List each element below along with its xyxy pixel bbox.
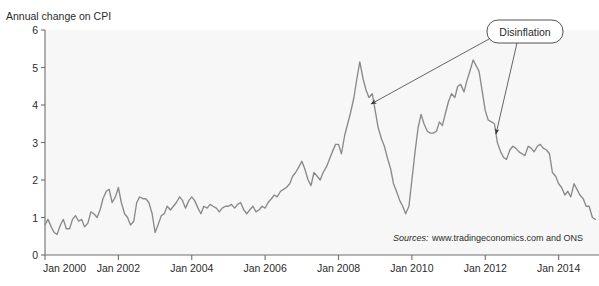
x-tick-label: Jan 2008 — [317, 262, 360, 274]
source-prefix-label: Sources: — [393, 233, 429, 243]
x-tick-label: Jan 2010 — [390, 262, 433, 274]
x-tick-label: Jan 2014 — [537, 262, 580, 274]
x-tick-label: Jan 2012 — [464, 262, 507, 274]
x-tick-label: Jan 2000 — [43, 262, 86, 274]
disinflation-label: Disinflation — [499, 26, 551, 38]
x-tick-label: Jan 2006 — [244, 262, 287, 274]
y-tick-label: 2 — [32, 174, 38, 186]
cpi-chart-figure: Annual change on CPI 0123456 Jan 2000Jan… — [0, 0, 599, 286]
plot-area-background — [45, 30, 599, 255]
y-tick-label: 1 — [32, 212, 38, 224]
chart-canvas: Annual change on CPI 0123456 Jan 2000Jan… — [0, 0, 599, 286]
x-tick-label: Jan 2002 — [97, 262, 140, 274]
x-tick-label: Jan 2004 — [170, 262, 213, 274]
y-tick-label: 0 — [32, 249, 38, 261]
y-axis-title: Annual change on CPI — [6, 10, 111, 22]
y-tick-label: 3 — [32, 137, 38, 149]
y-tick-label: 4 — [32, 99, 38, 111]
source-note: Sources: www.tradingeconomics.com and ON… — [393, 233, 583, 243]
y-tick-label: 6 — [32, 24, 38, 36]
source-body-label: www.tradingeconomics.com and ONS — [431, 233, 583, 243]
y-tick-label: 5 — [32, 62, 38, 74]
